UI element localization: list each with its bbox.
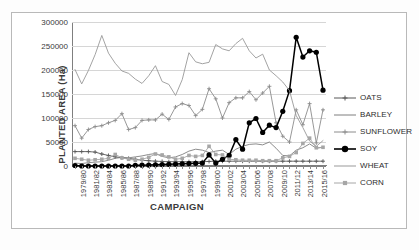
plot-area <box>72 22 326 165</box>
x-axis-tick <box>283 166 284 169</box>
x-axis-tick <box>276 166 277 169</box>
x-axis-title: CAMPAIGN <box>12 201 342 212</box>
x-axis-tick-label: 1979/80 <box>79 170 88 197</box>
x-axis-tick <box>202 166 203 169</box>
legend-label: SUNFLOWER <box>360 127 412 136</box>
x-axis-tick-label: 2009/10 <box>280 170 289 197</box>
y-axis-tick-label: 200000 <box>16 66 68 75</box>
x-axis-tick <box>323 166 324 169</box>
x-axis-tick-label: 2003/04 <box>239 170 248 197</box>
x-axis-tick-label: 1983/84 <box>105 170 114 197</box>
x-axis-tick-label: 1999/00 <box>213 170 222 197</box>
x-axis-tick <box>229 166 230 169</box>
x-axis-tick <box>189 166 190 169</box>
legend-swatch-barley-icon <box>334 110 356 120</box>
series-group <box>72 22 326 166</box>
chart-legend: OATSBARLEYSUNFLOWERSOYWHEATCORN <box>334 89 414 191</box>
y-axis-tick-label: 50000 <box>16 138 68 147</box>
x-axis-tick-label: 1985/86 <box>119 170 128 197</box>
x-axis-tick <box>155 166 156 169</box>
legend-item-barley[interactable]: BARLEY <box>334 106 414 123</box>
legend-swatch-soy-icon <box>334 144 356 154</box>
legend-label: CORN <box>360 178 384 187</box>
x-axis-tick <box>82 166 83 169</box>
x-axis-tick-label: 2015/16 <box>320 170 329 197</box>
x-axis-tick <box>149 166 150 169</box>
legend-swatch-corn-icon <box>334 178 356 188</box>
x-axis-tick <box>182 166 183 169</box>
x-axis-tick-label: 2013/14 <box>306 170 315 197</box>
legend-item-soy[interactable]: SOY <box>334 140 414 157</box>
x-axis-tick-label: 1987/88 <box>132 170 141 197</box>
legend-label: BARLEY <box>360 110 392 119</box>
x-axis-tick-label: 1981/82 <box>92 170 101 197</box>
x-axis-tick <box>176 166 177 169</box>
legend-label: OATS <box>360 93 382 102</box>
x-axis-tick <box>209 166 210 169</box>
x-axis-tick <box>269 166 270 169</box>
legend-swatch-sunflower-icon <box>334 127 356 137</box>
x-axis-tick-label: 2001/02 <box>226 170 235 197</box>
x-axis-tick <box>95 166 96 169</box>
legend-label: SOY <box>360 144 377 153</box>
x-axis-tick <box>122 166 123 169</box>
x-axis-tick <box>263 166 264 169</box>
x-axis-tick <box>310 166 311 169</box>
legend-label: WHEAT <box>360 161 389 170</box>
x-axis-tick <box>296 166 297 169</box>
legend-swatch-wheat-icon <box>334 161 356 171</box>
x-axis-tick <box>115 166 116 169</box>
x-axis-tick-label: 1989/90 <box>146 170 155 197</box>
x-axis-tick <box>129 166 130 169</box>
legend-item-oats[interactable]: OATS <box>334 89 414 106</box>
y-axis-tick-label: 300000 <box>16 18 68 27</box>
legend-item-wheat[interactable]: WHEAT <box>334 157 414 174</box>
x-axis-tick <box>222 166 223 169</box>
x-axis-tick <box>102 166 103 169</box>
chart-frame: PLANTED AREA (Ha) 0500001000001500002000… <box>11 12 407 229</box>
x-axis-tick <box>289 166 290 169</box>
x-axis-tick-label: 1993/94 <box>172 170 181 197</box>
x-axis-tick-label: 2007/08 <box>266 170 275 197</box>
y-axis-tick-labels: 050000100000150000200000250000300000 <box>12 22 68 166</box>
x-axis-tick <box>169 166 170 169</box>
x-axis-tick <box>243 166 244 169</box>
x-axis-tick <box>109 166 110 169</box>
y-axis-tick-label: 250000 <box>16 42 68 51</box>
y-axis-tick-label: 0 <box>16 162 68 171</box>
x-axis-tick <box>316 166 317 169</box>
x-axis-tick-label: 1997/98 <box>199 170 208 197</box>
x-axis-tick <box>303 166 304 169</box>
x-axis-tick <box>236 166 237 169</box>
chart-screenshot: PLANTED AREA (Ha) 0500001000001500002000… <box>0 0 419 250</box>
x-axis-tick <box>88 166 89 169</box>
x-axis-tick-label: 1995/96 <box>186 170 195 197</box>
y-axis-tick-label: 150000 <box>16 90 68 99</box>
x-axis-tick <box>75 166 76 169</box>
x-axis-tick-label: 1991/92 <box>159 170 168 197</box>
legend-item-corn[interactable]: CORN <box>334 174 414 191</box>
x-axis-tick <box>162 166 163 169</box>
y-axis-tick-label: 100000 <box>16 114 68 123</box>
x-axis-tick <box>196 166 197 169</box>
x-axis-tick <box>142 166 143 169</box>
x-axis-tick <box>249 166 250 169</box>
x-axis-tick-label: 2011/12 <box>293 170 302 197</box>
x-axis-tick <box>216 166 217 169</box>
x-axis-tick-labels: 1979/801981/821983/841985/861987/881989/… <box>72 170 332 230</box>
x-axis-tick <box>256 166 257 169</box>
x-axis-tick <box>135 166 136 169</box>
legend-item-sunflower[interactable]: SUNFLOWER <box>334 123 414 140</box>
legend-swatch-oats-icon <box>334 93 356 103</box>
x-axis-tick-label: 2005/06 <box>253 170 262 197</box>
